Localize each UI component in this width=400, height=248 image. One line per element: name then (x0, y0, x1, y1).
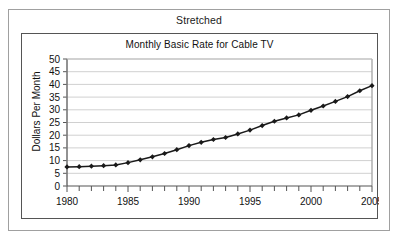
data-point-marker (101, 163, 106, 168)
data-point-marker (345, 94, 350, 99)
data-point-marker (272, 119, 277, 124)
stretched-container: Stretched Monthly Basic Rate for Cable T… (8, 9, 390, 231)
y-tick-label: 40 (49, 79, 61, 90)
chart-frame: Monthly Basic Rate for Cable TV Dollars … (21, 33, 378, 219)
data-point-marker (64, 164, 69, 169)
x-tick-label: 1995 (239, 196, 262, 207)
y-tick-label: 15 (49, 142, 61, 153)
data-point-marker (113, 162, 118, 167)
data-point-marker (235, 131, 240, 136)
y-tick-label: 35 (49, 92, 61, 103)
line-chart-plot: 0510152025303540455019801985199019952000… (22, 34, 379, 220)
data-point-marker (357, 88, 362, 93)
data-point-marker (211, 137, 216, 142)
data-point-marker (247, 128, 252, 133)
x-tick-label: 1980 (56, 196, 79, 207)
screenshot-root: Stretched Monthly Basic Rate for Cable T… (0, 0, 400, 248)
y-tick-label: 25 (49, 117, 61, 128)
data-point-marker (296, 112, 301, 117)
data-point-marker (162, 151, 167, 156)
data-point-marker (321, 103, 326, 108)
data-point-marker (77, 164, 82, 169)
y-tick-label: 20 (49, 130, 61, 141)
data-point-marker (260, 123, 265, 128)
x-tick-label: 1985 (117, 196, 140, 207)
y-tick-label: 45 (49, 66, 61, 77)
y-tick-label: 0 (54, 181, 60, 192)
data-series-line (67, 86, 372, 167)
y-tick-label: 10 (49, 155, 61, 166)
x-tick-label: 2005 (361, 196, 379, 207)
y-tick-label: 50 (49, 54, 61, 65)
data-point-marker (199, 140, 204, 145)
data-point-marker (369, 83, 374, 88)
data-point-marker (284, 115, 289, 120)
x-tick-label: 1990 (178, 196, 201, 207)
y-tick-label: 30 (49, 104, 61, 115)
y-tick-label: 5 (54, 168, 60, 179)
data-point-marker (150, 154, 155, 159)
data-point-marker (308, 108, 313, 113)
data-point-marker (138, 157, 143, 162)
stretched-label: Stretched (9, 14, 389, 26)
data-point-marker (89, 164, 94, 169)
data-point-marker (333, 99, 338, 104)
x-tick-label: 2000 (300, 196, 323, 207)
